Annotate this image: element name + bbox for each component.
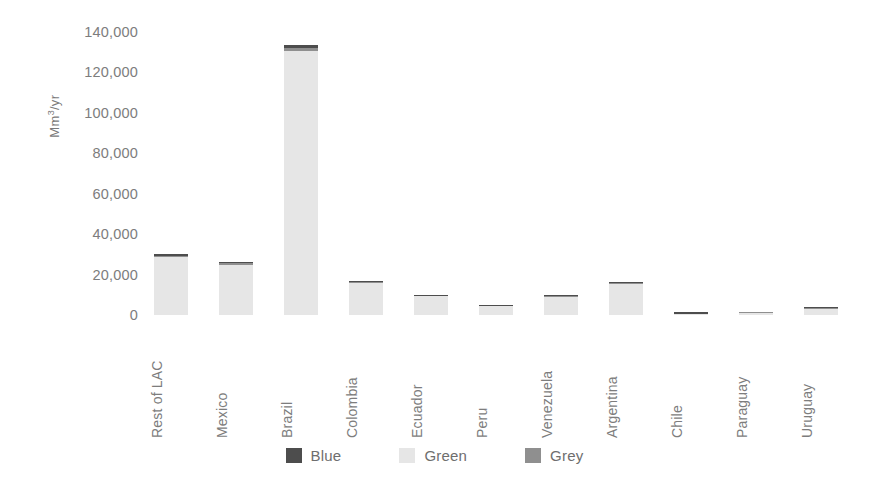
- bar-group[interactable]: [154, 20, 188, 315]
- x-tick-label: Ecuador: [409, 384, 425, 438]
- legend-item[interactable]: Blue: [286, 447, 342, 464]
- bar-group[interactable]: [804, 20, 838, 315]
- x-tick-label: Argentina: [604, 376, 620, 438]
- bar-stack: [479, 305, 513, 315]
- bar-stack: [284, 45, 318, 315]
- chart-legend: BlueGreenGrey: [0, 447, 869, 464]
- y-tick-label: 120,000: [18, 64, 138, 80]
- legend-swatch-icon: [525, 448, 541, 463]
- legend-item[interactable]: Grey: [525, 447, 583, 464]
- bar-stack: [414, 295, 448, 315]
- y-tick-label: 140,000: [18, 24, 138, 40]
- legend-label: Green: [424, 447, 467, 464]
- legend-item[interactable]: Green: [399, 447, 467, 464]
- y-tick-label: 20,000: [18, 267, 138, 283]
- bar-group[interactable]: [609, 20, 643, 315]
- legend-label: Blue: [311, 447, 342, 464]
- bar-group[interactable]: [674, 20, 708, 315]
- bar-group[interactable]: [544, 20, 578, 315]
- bar-segment-green[interactable]: [804, 309, 838, 315]
- bar-stack: [804, 307, 838, 315]
- bar-segment-green[interactable]: [479, 306, 513, 315]
- bar-segment-green[interactable]: [284, 51, 318, 315]
- y-tick-label: 100,000: [18, 105, 138, 121]
- bar-segment-green[interactable]: [544, 297, 578, 315]
- bar-segment-green[interactable]: [609, 284, 643, 315]
- bar-segment-green[interactable]: [349, 283, 383, 315]
- bar-segment-green[interactable]: [674, 314, 708, 315]
- x-tick-label: Venezuela: [539, 371, 555, 438]
- y-axis-tick-labels: 020,00040,00060,00080,000100,000120,0001…: [0, 0, 138, 488]
- bar-stack: [219, 262, 253, 315]
- bar-stack: [349, 281, 383, 315]
- bar-group[interactable]: [739, 20, 773, 315]
- x-tick-label: Brazil: [279, 402, 295, 438]
- legend-swatch-icon: [286, 448, 302, 463]
- bar-group[interactable]: [349, 20, 383, 315]
- x-tick-label: Uruguay: [799, 384, 815, 438]
- bar-segment-green[interactable]: [154, 257, 188, 315]
- x-axis-tick-labels: Rest of LACMexicoBrazilColombiaEcuadorPe…: [138, 318, 853, 433]
- legend-label: Grey: [550, 447, 583, 464]
- x-tick-label: Colombia: [344, 377, 360, 438]
- bar-stack: [739, 312, 773, 315]
- y-tick-label: 40,000: [18, 226, 138, 242]
- bar-segment-green[interactable]: [739, 313, 773, 315]
- bar-stack: [544, 295, 578, 315]
- bar-stack: [154, 254, 188, 315]
- legend-swatch-icon: [399, 448, 415, 463]
- x-tick-label: Chile: [669, 405, 685, 438]
- y-tick-label: 80,000: [18, 145, 138, 161]
- x-tick-label: Rest of LAC: [149, 360, 165, 438]
- x-tick-label: Mexico: [214, 392, 230, 438]
- bar-group[interactable]: [414, 20, 448, 315]
- x-tick-label: Peru: [474, 408, 490, 438]
- bar-group[interactable]: [284, 20, 318, 315]
- bar-segment-green[interactable]: [219, 265, 253, 315]
- bar-group[interactable]: [219, 20, 253, 315]
- bar-stack: [674, 312, 708, 315]
- plot-area: [138, 20, 853, 315]
- bar-segment-green[interactable]: [414, 296, 448, 315]
- bar-stack: [609, 282, 643, 315]
- y-tick-label: 0: [18, 307, 138, 323]
- y-tick-label: 60,000: [18, 186, 138, 202]
- bar-group[interactable]: [479, 20, 513, 315]
- bar-chart: Mm3/yr 020,00040,00060,00080,000100,0001…: [0, 0, 869, 488]
- x-tick-label: Paraguay: [734, 376, 750, 438]
